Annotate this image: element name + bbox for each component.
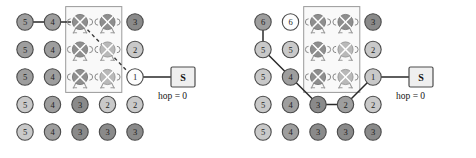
grid-node[interactable]: 4 bbox=[282, 69, 298, 85]
grid-node-circle[interactable] bbox=[255, 96, 271, 112]
diagram-panel-left: 5435425415432254333S hop = 0 bbox=[0, 0, 238, 158]
grid-node-circle[interactable] bbox=[282, 124, 298, 140]
grid-node[interactable]: 6 bbox=[255, 14, 271, 30]
grid-node[interactable]: 3 bbox=[337, 124, 353, 140]
grid-node-circle[interactable] bbox=[127, 124, 143, 140]
grid-node[interactable]: 2 bbox=[337, 96, 353, 112]
grid-node[interactable]: 3 bbox=[365, 14, 381, 30]
hop-caption-left: hop = 0 bbox=[158, 91, 187, 101]
grid-node-circle[interactable] bbox=[44, 124, 60, 140]
grid-node[interactable]: 5 bbox=[17, 41, 33, 57]
grid-node-circle[interactable] bbox=[44, 96, 60, 112]
grid-node-circle[interactable] bbox=[127, 41, 143, 57]
grid-node-circle[interactable] bbox=[365, 41, 381, 57]
grid-node-circle[interactable] bbox=[44, 41, 60, 57]
grid-node[interactable]: 5 bbox=[255, 124, 271, 140]
grid-node[interactable]: 5 bbox=[17, 14, 33, 30]
grid-node-circle[interactable] bbox=[310, 96, 326, 112]
grid-node[interactable]: 3 bbox=[99, 124, 115, 140]
grid-node-circle[interactable] bbox=[282, 69, 298, 85]
grid-node-circle[interactable] bbox=[255, 14, 271, 30]
grid-node-circle[interactable] bbox=[365, 96, 381, 112]
grid-node[interactable]: 4 bbox=[44, 124, 60, 140]
grid-node[interactable]: 3 bbox=[310, 96, 326, 112]
grid-node-circle[interactable] bbox=[365, 14, 381, 30]
sink-node[interactable]: S bbox=[171, 67, 195, 87]
diagram-panel-right: 6635525415432254333S hop = 0 bbox=[238, 0, 476, 158]
grid-node[interactable]: 3 bbox=[127, 14, 143, 30]
grid-node[interactable]: 2 bbox=[127, 41, 143, 57]
figure-canvas: 5435425415432254333S hop = 0 66355254154… bbox=[0, 0, 476, 158]
sink-node[interactable]: S bbox=[409, 67, 433, 87]
grid-node-circle[interactable] bbox=[282, 41, 298, 57]
diagram-svg-left: 5435425415432254333S bbox=[0, 0, 238, 158]
grid-node-circle[interactable] bbox=[282, 96, 298, 112]
grid-node-circle[interactable] bbox=[72, 124, 88, 140]
grid-node[interactable]: 2 bbox=[99, 96, 115, 112]
grid-node[interactable]: 4 bbox=[44, 69, 60, 85]
grid-node[interactable]: 5 bbox=[255, 96, 271, 112]
grid-node[interactable]: 5 bbox=[255, 41, 271, 57]
grid-node[interactable]: 5 bbox=[255, 69, 271, 85]
grid-node[interactable]: 4 bbox=[282, 96, 298, 112]
grid-node-circle[interactable] bbox=[310, 124, 326, 140]
grid-node[interactable]: 6 bbox=[282, 14, 298, 30]
grid-node-circle[interactable] bbox=[127, 96, 143, 112]
grid-node[interactable]: 3 bbox=[72, 96, 88, 112]
grid-node[interactable]: 2 bbox=[365, 41, 381, 57]
grid-node[interactable]: 5 bbox=[17, 124, 33, 140]
grid-node-circle[interactable] bbox=[255, 69, 271, 85]
grid-node-circle[interactable] bbox=[17, 96, 33, 112]
grid-node-circle[interactable] bbox=[337, 124, 353, 140]
grid-node[interactable]: 4 bbox=[44, 96, 60, 112]
grid-node[interactable]: 5 bbox=[17, 69, 33, 85]
grid-node[interactable]: 4 bbox=[44, 14, 60, 30]
grid-node[interactable]: 5 bbox=[282, 41, 298, 57]
grid-node-circle[interactable] bbox=[44, 69, 60, 85]
grid-node[interactable]: 1 bbox=[365, 69, 381, 85]
grid-node-circle[interactable] bbox=[365, 69, 381, 85]
grid-node[interactable]: 1 bbox=[127, 69, 143, 85]
grid-node-circle[interactable] bbox=[17, 69, 33, 85]
grid-node-circle[interactable] bbox=[17, 14, 33, 30]
grid-node[interactable]: 2 bbox=[365, 96, 381, 112]
grid-node[interactable]: 3 bbox=[310, 124, 326, 140]
grid-node[interactable]: 4 bbox=[44, 41, 60, 57]
grid-node-circle[interactable] bbox=[127, 14, 143, 30]
grid-node[interactable]: 4 bbox=[282, 124, 298, 140]
diagram-svg-right: 6635525415432254333S bbox=[238, 0, 476, 158]
grid-node[interactable]: 3 bbox=[72, 124, 88, 140]
grid-node-circle[interactable] bbox=[99, 96, 115, 112]
grid-node-circle[interactable] bbox=[255, 41, 271, 57]
grid-node-circle[interactable] bbox=[255, 124, 271, 140]
grid-node-circle[interactable] bbox=[17, 124, 33, 140]
grid-node-circle[interactable] bbox=[99, 124, 115, 140]
hop-caption-right: hop = 0 bbox=[396, 91, 425, 101]
grid-node-circle[interactable] bbox=[337, 96, 353, 112]
grid-node[interactable]: 5 bbox=[17, 96, 33, 112]
grid-node-circle[interactable] bbox=[44, 14, 60, 30]
grid-node-circle[interactable] bbox=[17, 41, 33, 57]
sink-label: S bbox=[418, 72, 424, 83]
grid-node[interactable]: 3 bbox=[127, 124, 143, 140]
grid-node-circle[interactable] bbox=[72, 96, 88, 112]
grid-node-circle[interactable] bbox=[365, 124, 381, 140]
grid-node-circle[interactable] bbox=[127, 69, 143, 85]
grid-node[interactable]: 2 bbox=[127, 96, 143, 112]
sink-label: S bbox=[180, 72, 186, 83]
grid-node-circle[interactable] bbox=[282, 14, 298, 30]
grid-node[interactable]: 3 bbox=[365, 124, 381, 140]
